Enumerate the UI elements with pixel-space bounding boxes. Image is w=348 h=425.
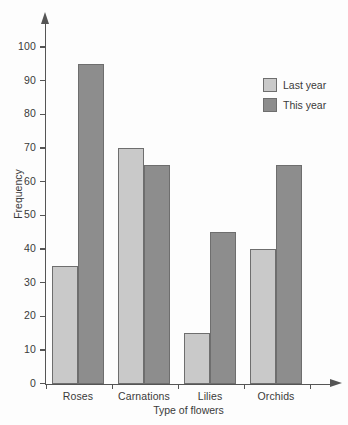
y-tick-label: 70 <box>2 141 36 153</box>
y-tick-label: 90 <box>2 74 36 86</box>
x-tick-label: Orchids <box>236 390 316 402</box>
y-axis-line <box>45 22 46 385</box>
y-tick-label: 40 <box>2 242 36 254</box>
bar <box>184 333 210 383</box>
y-tick <box>40 383 45 384</box>
y-tick <box>40 248 45 249</box>
bar <box>276 165 302 384</box>
legend-label-this-year: This year <box>283 99 326 111</box>
y-tick-label: 30 <box>2 276 36 288</box>
y-tick <box>40 114 45 115</box>
y-tick <box>40 181 45 182</box>
y-tick <box>40 316 45 317</box>
y-axis-arrow-icon <box>41 12 49 24</box>
y-tick <box>40 147 45 148</box>
y-tick-label: 100 <box>2 40 36 52</box>
legend-item: This year <box>263 96 326 113</box>
legend-label-last-year: Last year <box>283 79 326 91</box>
legend-swatch-this-year <box>263 98 277 112</box>
x-axis-arrow-icon <box>330 379 342 387</box>
x-tick <box>178 384 179 389</box>
y-tick-label: 20 <box>2 309 36 321</box>
x-axis-line <box>45 384 332 385</box>
y-tick <box>40 282 45 283</box>
y-tick-label: 10 <box>2 343 36 355</box>
x-tick <box>244 384 245 389</box>
legend-item: Last year <box>263 76 326 93</box>
bar <box>78 64 104 384</box>
y-tick <box>40 349 45 350</box>
bar <box>144 165 170 384</box>
plot-area: 0102030405060708090100 RosesCarnationsLi… <box>0 0 348 425</box>
y-tick-label: 0 <box>2 377 36 389</box>
y-tick <box>40 46 45 47</box>
legend-swatch-last-year <box>263 78 277 92</box>
y-tick <box>40 215 45 216</box>
chart-figure: 0102030405060708090100 RosesCarnationsLi… <box>0 0 348 425</box>
x-tick <box>310 384 311 389</box>
y-tick <box>40 80 45 81</box>
legend: Last year This year <box>263 76 326 116</box>
bar <box>52 266 78 384</box>
x-axis-title: Type of flowers <box>45 404 332 416</box>
bar <box>118 148 144 384</box>
bar <box>210 232 236 383</box>
y-axis-title: Frequency <box>12 154 24 234</box>
bar <box>250 249 276 384</box>
x-tick <box>112 384 113 389</box>
y-tick-label: 80 <box>2 107 36 119</box>
x-tick <box>46 384 47 389</box>
